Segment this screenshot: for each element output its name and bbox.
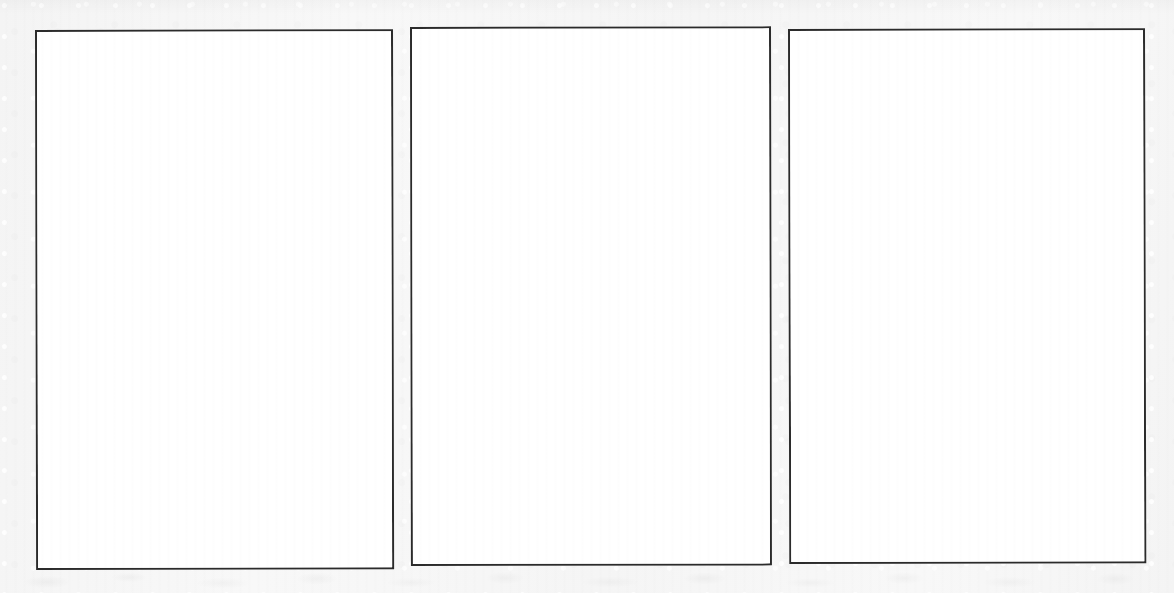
panel-center-content-area[interactable]: [412, 28, 770, 564]
blank-framed-panel-center[interactable]: [410, 26, 772, 566]
blank-framed-panel-right[interactable]: [788, 28, 1146, 564]
scanned-page: [0, 0, 1174, 593]
blank-framed-panel-left[interactable]: [35, 29, 394, 570]
panel-right-content-area[interactable]: [790, 30, 1144, 562]
scan-top-edge-shading: [0, 0, 1174, 14]
panel-left-content-area[interactable]: [37, 31, 392, 568]
scan-bottom-smudge-band: [0, 567, 1174, 593]
